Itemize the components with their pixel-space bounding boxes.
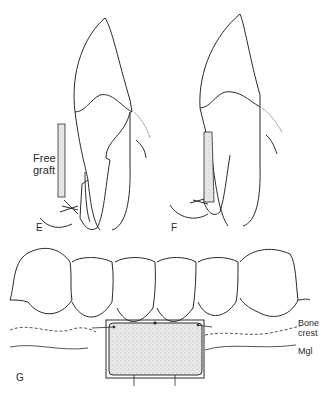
- mgl-label: Mgl: [298, 345, 313, 357]
- panel-label-e: E: [36, 222, 43, 233]
- free-graft-strip: [58, 124, 65, 197]
- graft-in-place: [204, 132, 214, 202]
- free-graft-g: [109, 323, 202, 375]
- bone-crest-line-left: [10, 327, 96, 332]
- bone-crest-label: Bone crest: [298, 318, 319, 338]
- mucogingival-line-left: [10, 346, 88, 349]
- teeth-row-panel-g: [10, 248, 310, 321]
- tooth-panel-e: [40, 18, 150, 230]
- bone-crest-line-right: [205, 326, 300, 335]
- tooth-panel-f: [170, 14, 282, 226]
- mucogingival-line-right: [205, 345, 296, 350]
- free-graft-label: Free graft: [33, 152, 56, 176]
- panel-label-g: G: [16, 372, 24, 383]
- panel-label-f: F: [171, 222, 177, 233]
- dental-graft-diagram: [0, 0, 326, 400]
